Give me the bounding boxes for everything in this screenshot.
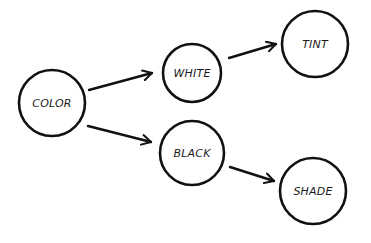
- node-black: BLACK: [160, 121, 224, 185]
- arrow-color-to-black-icon: [88, 126, 151, 142]
- node-color: COLOR: [19, 70, 85, 136]
- node-white: WHITE: [163, 44, 221, 102]
- node-shade: SHADE: [280, 158, 346, 224]
- arrow-black-to-shade-icon: [230, 167, 274, 181]
- arrow-color-to-white-icon: [89, 73, 152, 90]
- node-tint: TINT: [282, 11, 348, 77]
- node-label-color: COLOR: [32, 97, 71, 110]
- nodes-group: COLORWHITETINTBLACKSHADE: [19, 11, 348, 224]
- color-concept-diagram: COLORWHITETINTBLACKSHADE: [0, 0, 371, 243]
- node-label-black: BLACK: [173, 147, 211, 160]
- node-label-shade: SHADE: [293, 185, 332, 198]
- arrow-white-to-tint-icon: [229, 44, 276, 58]
- edges-group: [88, 44, 276, 181]
- node-label-tint: TINT: [302, 38, 329, 51]
- node-label-white: WHITE: [173, 67, 210, 80]
